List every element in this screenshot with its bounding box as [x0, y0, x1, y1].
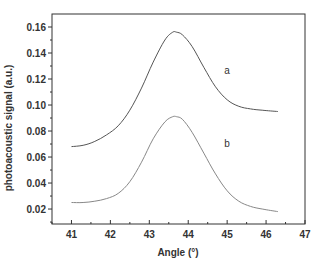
x-tick-label: 46 — [261, 229, 273, 240]
y-tick-label: 0.12 — [27, 74, 47, 85]
x-tick-label: 44 — [183, 229, 195, 240]
series-lines — [72, 32, 278, 212]
x-tick-label: 47 — [299, 229, 311, 240]
series-label-a: a — [224, 65, 230, 76]
y-tick-label: 0.16 — [27, 22, 47, 33]
plot-frame — [52, 14, 305, 224]
x-axis: 41424344454647 — [52, 220, 311, 240]
series-label-b: b — [224, 138, 230, 149]
y-axis: 0.020.040.060.080.100.120.140.16 — [27, 22, 52, 223]
y-tick-label: 0.08 — [27, 126, 47, 137]
x-tick-label: 43 — [144, 229, 156, 240]
y-tick-label: 0.02 — [27, 204, 47, 215]
y-axis-title: photoacoustic signal (a.u.) — [3, 65, 14, 192]
x-axis-title: Angle (°) — [157, 247, 198, 258]
y-tick-label: 0.04 — [27, 178, 47, 189]
y-tick-label: 0.14 — [27, 48, 47, 59]
x-tick-label: 41 — [66, 229, 78, 240]
series-line-b — [72, 116, 278, 211]
x-tick-label: 42 — [105, 229, 117, 240]
y-tick-label: 0.10 — [27, 100, 47, 111]
series-line-a — [72, 32, 278, 147]
y-tick-label: 0.06 — [27, 152, 47, 163]
x-tick-label: 45 — [222, 229, 234, 240]
series-labels: ab — [224, 65, 230, 149]
line-chart: 0.020.040.060.080.100.120.140.16 4142434… — [0, 0, 321, 270]
